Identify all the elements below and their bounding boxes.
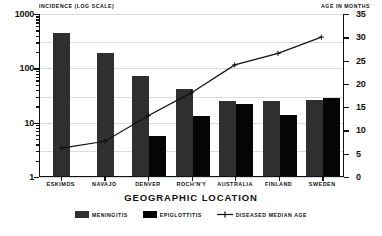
x-axis-category-label: SWEDEN [309,181,336,187]
y2-axis-tick [344,61,349,62]
y2-axis-tick-label: 25 [356,56,366,66]
left-axis-title: INCIDENCE (LOG SCALE) [39,3,114,9]
x-axis-category-label: AUSTRALIA [217,181,253,187]
y2-axis-tick-label: 15 [356,102,366,112]
legend-label: DISEASED MEDIAN AGE [236,212,307,218]
line-series-layer [40,14,343,176]
y2-axis-tick [344,130,349,131]
legend-item[interactable]: MENINGITIS [75,211,128,218]
line-marker-plus [59,146,64,151]
chart-legend: MENINGITISEPIGLOTTITISDISEASED MEDIAN AG… [0,211,382,218]
legend-label: EPIGLOTTITIS [160,212,202,218]
right-axis: 05101520253035 [344,14,382,177]
legend-item[interactable]: EPIGLOTTITIS [143,211,202,218]
legend-swatch-icon [143,211,157,218]
line-marker-plus [275,51,280,56]
legend-label: MENINGITIS [92,212,128,218]
left-axis: 1101001000 [0,14,39,177]
legend-item[interactable]: DISEASED MEDIAN AGE [217,211,307,218]
x-axis-category-label: FINLAND [265,181,292,187]
y2-axis-tick-label: 0 [356,172,361,182]
y2-axis-tick [344,14,349,15]
plot-area [39,14,344,177]
y-axis-tick-label: 10 [24,118,34,128]
x-axis-category-label: DENVER [135,181,160,187]
x-axis-category-label: NAVAJO [92,181,117,187]
y2-axis-tick-label: 30 [356,32,366,42]
y2-axis-tick [344,154,349,155]
y2-axis-tick-label: 20 [356,79,366,89]
y2-axis-tick [344,37,349,38]
x-axis-title: GEOGRAPHIC LOCATION [0,192,382,203]
y-axis-tick-label: 100 [20,63,34,73]
line-marker-plus [319,35,324,40]
x-axis-category-label: ESKIMOS [47,181,75,187]
legend-swatch-icon [75,211,89,218]
line-marker-plus [146,113,151,118]
chart-container: INCIDENCE (LOG SCALE) AGE IN MONTHS 1101… [0,0,382,236]
y2-axis-tick [344,177,349,178]
line-marker-icon [217,211,233,218]
y-axis-tick-label: 1000 [15,9,34,19]
line-marker-plus [102,139,107,144]
y2-axis-tick [344,107,349,108]
x-axis-category-label: ROCH'N'Y [177,181,207,187]
y2-axis-tick-label: 35 [356,9,366,19]
y2-axis-tick-label: 10 [356,125,366,135]
y2-axis-tick-label: 5 [356,149,361,159]
y2-axis-tick [344,84,349,85]
